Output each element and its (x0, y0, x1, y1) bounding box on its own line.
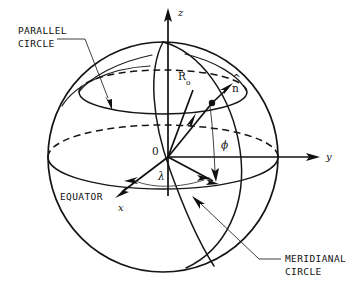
parallel-cap-left-edge (79, 55, 152, 92)
radius-label-subscript: o (186, 78, 191, 87)
lambda-angle-label: λ (157, 170, 165, 182)
meridianal-circle-label-line2: CIRCLE (285, 266, 322, 277)
y-axis-label: y (325, 151, 332, 162)
normal-vector-label: n (232, 82, 239, 94)
parallel-circle-leader-line (57, 39, 108, 98)
tilted-small-circle-left-arc (62, 66, 150, 106)
origin-label: 0 (152, 145, 159, 157)
parallel-circle-label-line1: PARALLEL (18, 25, 67, 36)
x-axis-label: x (118, 202, 124, 213)
equator-label: EQUATOR (60, 191, 103, 202)
radius-vector-to-point (168, 103, 212, 157)
equator-back-arc (48, 125, 278, 157)
spherical-coordinate-diagram: PARALLEL CIRCLE EQUATOR MERIDIANAL CIRCL… (0, 0, 358, 291)
meridianal-circle-label-line1: MERIDIANAL (285, 253, 346, 264)
z-axis-label: z (177, 7, 184, 18)
parallel-circle-label-line2: CIRCLE (18, 38, 55, 49)
meridianal-circle-leader-arrowhead (192, 196, 205, 209)
diagram-canvas: PARALLEL CIRCLE EQUATOR MERIDIANAL CIRCL… (0, 0, 358, 291)
phi-angle-label: ϕ (221, 139, 228, 151)
meridianal-circle-front-arc (163, 42, 242, 268)
phi-drop-line (210, 106, 215, 172)
